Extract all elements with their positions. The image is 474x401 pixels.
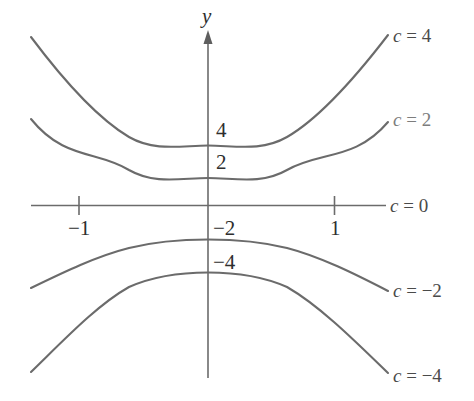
curve-label-c-0: c = 0 <box>390 196 428 215</box>
y-axis-label: y <box>202 6 211 27</box>
y-level-label-4: 4 <box>216 120 227 141</box>
curve-label-c-minus-2: c = −2 <box>393 281 442 300</box>
y-level-label-minus-4: −4 <box>213 252 235 273</box>
curve-c-minus-2 <box>31 240 388 292</box>
x-tick-label-minus-1: −1 <box>68 218 90 239</box>
curve-c-minus-4 <box>31 273 388 374</box>
curve-label-c-2: c = 2 <box>393 110 431 129</box>
level-curves-figure: y 4 2 −2 −4 −1 1 c = 4 c = 2 c = 0 c = −… <box>0 0 474 401</box>
y-axis <box>204 30 213 378</box>
curve-label-c-4: c = 4 <box>393 26 431 45</box>
x-tick-label-1: 1 <box>330 218 341 239</box>
y-level-label-2: 2 <box>216 152 227 173</box>
curve-label-c-minus-4: c = −4 <box>393 366 442 385</box>
y-level-label-minus-2: −2 <box>213 218 235 239</box>
curve-c-2 <box>31 119 388 180</box>
curve-c-4 <box>31 35 388 147</box>
